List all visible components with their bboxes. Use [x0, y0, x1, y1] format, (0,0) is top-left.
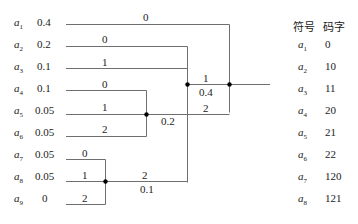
- table-code-a2: 10: [325, 60, 336, 72]
- table-code-a6: 22: [325, 148, 336, 160]
- table-code-a3: 11: [325, 82, 336, 94]
- label-a3: 1: [102, 56, 108, 68]
- label-a5: 1: [102, 101, 108, 113]
- label-a8: 1: [82, 169, 88, 181]
- label-inner-prob: 0.4: [199, 86, 213, 98]
- label-group456-out: 2: [203, 102, 209, 114]
- huffman-ternary-diagram: a1 0.4 a2 0.2 a3 0.1 a4 0.1 a5 0.05 a6 0…: [0, 0, 358, 224]
- label-a9: 2: [82, 192, 88, 204]
- node-root: [227, 82, 231, 86]
- table-header-symbol: 符号: [293, 18, 315, 34]
- table-symbol-a8: a8: [298, 192, 307, 207]
- table-code-a5: 21: [325, 126, 336, 138]
- node-a4-a6: [144, 112, 148, 116]
- label-a6: 2: [102, 123, 108, 135]
- table-symbol-a4: a4: [298, 104, 307, 119]
- label-a4: 0: [102, 78, 108, 90]
- label-a1: 0: [143, 11, 149, 23]
- table-code-a8: 121: [325, 192, 342, 204]
- table-symbol-a7: a7: [298, 170, 307, 185]
- table-symbol-a1: a1: [298, 38, 307, 53]
- table-symbol-a5: a5: [298, 126, 307, 141]
- label-a2: 0: [102, 33, 108, 45]
- node-a7-a9: [103, 179, 107, 183]
- table-code-a7: 120: [325, 170, 342, 182]
- label-group789-prob: 0.1: [140, 183, 154, 195]
- table-code-a1: 0: [325, 38, 331, 50]
- node-inner: [185, 82, 189, 86]
- label-group456-prob: 0.2: [161, 115, 175, 127]
- label-inner-out: 1: [203, 72, 209, 84]
- table-code-a4: 20: [325, 104, 336, 116]
- table-symbol-a6: a6: [298, 148, 307, 163]
- label-group789-out: 2: [142, 169, 148, 181]
- label-a7: 0: [82, 147, 88, 159]
- table-symbol-a2: a2: [298, 60, 307, 75]
- table-header-code: 码字: [323, 18, 345, 34]
- table-symbol-a3: a3: [298, 82, 307, 97]
